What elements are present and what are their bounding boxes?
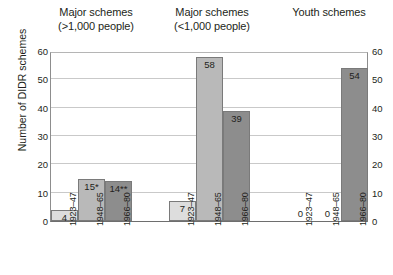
group-header-line: (<1,000 people)	[152, 20, 272, 34]
x-tick-label: 1966–80	[240, 192, 250, 226]
y-tick-label-right: 0	[372, 217, 393, 227]
x-tick-label: 1948–65	[331, 192, 341, 226]
y-tick-label-right: 30	[372, 132, 393, 142]
x-tick-label: 1948–65	[213, 192, 223, 226]
x-tick-label: 1923–47	[186, 192, 196, 226]
x-tick-label: 1948–65	[95, 192, 105, 226]
y-tick-label-left: 0	[26, 217, 48, 227]
y-tick-label-right: 40	[372, 104, 393, 114]
y-tick-label-left: 60	[26, 47, 48, 57]
y-tick-label-right: 50	[372, 75, 393, 85]
group-header-line: Youth schemes	[268, 6, 390, 20]
bar-value-label: 39	[224, 114, 249, 124]
y-axis-title: Number of DIDR schemes	[16, 10, 28, 170]
x-tick-label: 1966–80	[358, 192, 368, 226]
chart-figure: Major schemes (>1,000 people) Major sche…	[0, 0, 393, 275]
group-header-line: Major schemes	[36, 6, 156, 20]
y-tick-label-right: 60	[372, 47, 393, 57]
bar-value-label: 54	[342, 71, 367, 81]
group-header-line: (>1,000 people)	[36, 20, 156, 34]
y-tick-label-right: 10	[372, 189, 393, 199]
y-tick-label-left: 40	[26, 104, 48, 114]
group-headers: Major schemes (>1,000 people) Major sche…	[0, 6, 393, 48]
group-header-line: Major schemes	[152, 6, 272, 20]
y-tick-label-left: 30	[26, 132, 48, 142]
group-header-major-large: Major schemes (>1,000 people)	[36, 6, 156, 33]
x-tick-label: 1966–80	[122, 192, 132, 226]
y-tick-label-left: 50	[26, 75, 48, 85]
bar-value-label: 58	[197, 60, 222, 70]
x-tick-label: 1923–47	[304, 192, 314, 226]
x-tick-label: 1923–47	[68, 192, 78, 226]
bar-value-label: 15*	[79, 182, 104, 192]
y-tick-label-right: 20	[372, 160, 393, 170]
group-header-major-small: Major schemes (<1,000 people)	[152, 6, 272, 33]
y-tick-label-left: 10	[26, 189, 48, 199]
y-tick-label-left: 20	[26, 160, 48, 170]
group-header-youth: Youth schemes	[268, 6, 390, 20]
